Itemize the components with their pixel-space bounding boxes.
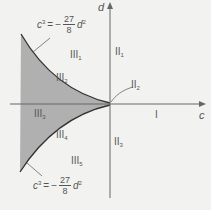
region-III2: III2 <box>56 73 68 84</box>
region-III5: III5 <box>71 156 83 167</box>
region-II3: II3 <box>114 137 123 148</box>
c-axis-label: c <box>199 110 205 121</box>
d-axis-label: d <box>98 2 104 13</box>
region-II2: II2 <box>131 80 140 91</box>
c-axis-arrow-icon <box>199 101 206 107</box>
fraction: 278 <box>63 14 75 35</box>
region-III1: III1 <box>70 50 82 61</box>
top-equation: c3 = − 278 d2 <box>37 14 86 35</box>
cusp-diagram <box>0 0 211 210</box>
region-II1: II1 <box>115 47 124 58</box>
d-axis-arrow-icon <box>107 2 113 9</box>
region-III4: III4 <box>56 130 68 141</box>
II2-leader <box>111 87 133 102</box>
bottom-equation: c3 = − 278 d2 <box>33 175 82 196</box>
fraction: 278 <box>59 175 71 196</box>
top-equation-leader <box>33 38 50 52</box>
region-I: I <box>155 110 158 120</box>
shaded-region-III3 <box>20 34 110 172</box>
region-III3: III3 <box>34 109 46 120</box>
